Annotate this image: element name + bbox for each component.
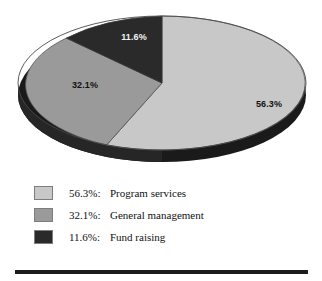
pie-chart-svg: 56.3% 32.1% 11.6% [14,6,310,172]
legend-item-general-management[interactable]: 32.1%:General management [34,204,284,226]
legend-item-program-services[interactable]: 56.3%:Program services [34,182,284,204]
slice-label-program-services: 56.3% [256,99,282,109]
legend-label-program-services: 56.3%:Program services [69,187,186,199]
slice-label-general-management: 32.1% [72,80,98,90]
chart-legend: 56.3%:Program services 32.1%:General man… [34,182,284,248]
legend-percent-general-management: 32.1%: [69,209,105,221]
bottom-divider-rule [15,270,308,274]
legend-label-fund-raising: 11.6%:Fund raising [69,231,165,243]
legend-item-fund-raising[interactable]: 11.6%:Fund raising [34,226,284,248]
legend-swatch-fund-raising [34,230,53,244]
legend-label-general-management: 32.1%:General management [69,209,204,221]
legend-name-fund-raising: Fund raising [110,231,165,243]
legend-swatch-program-services [34,186,53,200]
legend-swatch-general-management [34,208,53,222]
pie-slices [26,16,306,150]
pie-chart-figure: 56.3% 32.1% 11.6% 56.3%:Program services… [0,0,322,281]
legend-name-general-management: General management [110,209,204,221]
legend-percent-fund-raising: 11.6%: [69,231,105,243]
legend-percent-program-services: 56.3%: [69,187,105,199]
pie-chart-plot: 56.3% 32.1% 11.6% [14,6,310,172]
legend-name-program-services: Program services [110,187,186,199]
slice-label-fund-raising: 11.6% [121,32,147,42]
